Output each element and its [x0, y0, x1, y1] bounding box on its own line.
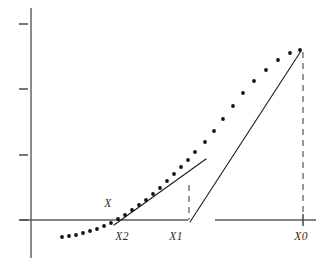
curve-dot — [109, 221, 113, 225]
curve-dot — [144, 198, 148, 202]
curve-dot — [276, 58, 280, 62]
curve-dot — [151, 192, 155, 196]
curve-dot — [231, 104, 235, 108]
curve-dot — [186, 158, 190, 162]
curve-dot — [123, 213, 127, 217]
curve-dot — [81, 231, 85, 235]
curve-dot — [241, 91, 245, 95]
curve-dot — [203, 140, 207, 144]
curve-dot — [95, 227, 99, 231]
curve-dot — [221, 117, 225, 121]
curve-dot — [288, 51, 292, 55]
curve-dot-series — [60, 48, 302, 239]
curve-dot — [137, 203, 141, 207]
curve-dot — [172, 172, 176, 176]
curve-dot — [116, 217, 120, 221]
x1-label: X1 — [168, 230, 183, 242]
curve-dot — [67, 234, 71, 238]
x2-label: X2 — [114, 230, 129, 242]
curve-dot — [193, 150, 197, 154]
curve-dot — [74, 233, 78, 237]
curve-dot — [102, 224, 106, 228]
secant-line-x2 — [114, 159, 206, 225]
curve-dot — [60, 235, 64, 239]
curve-dot — [298, 48, 302, 52]
curve-dot — [264, 68, 268, 72]
curve-dot — [130, 208, 134, 212]
x0-label: X0 — [293, 230, 308, 242]
secant-line-x1 — [190, 51, 301, 222]
root-label: X — [103, 197, 112, 209]
curve-dot — [179, 165, 183, 169]
curve-dot — [212, 129, 216, 133]
curve-dot — [88, 229, 92, 233]
curve-dot — [158, 186, 162, 190]
secant-method-figure: X X2 X1 X0 — [0, 0, 325, 267]
curve-dot — [165, 179, 169, 183]
figure-container: X X2 X1 X0 — [0, 0, 325, 267]
curve-dot — [252, 79, 256, 83]
